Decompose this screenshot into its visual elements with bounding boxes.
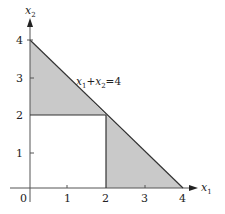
y-axis-arrow-icon <box>27 18 33 27</box>
diagram-canvas: 0 1 2 3 4 1 2 3 4 x1 x2 x1+x2=4 <box>0 0 225 214</box>
y-tick-label-4: 4 <box>16 34 23 47</box>
y-tick-label-1: 1 <box>16 147 23 160</box>
x-tick-label-4: 4 <box>179 192 186 205</box>
x-tick-label-1: 1 <box>64 192 71 205</box>
x-axis-label: x1 <box>201 181 212 196</box>
y-tick-label-3: 3 <box>16 72 23 85</box>
x-axis-arrow-icon <box>189 185 198 191</box>
x-tick-label-3: 3 <box>141 192 148 205</box>
constraint-equation-label: x1+x2=4 <box>76 75 121 90</box>
x-tick-label-0: 0 <box>20 192 27 205</box>
y-axis-label: x2 <box>25 4 36 19</box>
x-tick-label-2: 2 <box>102 192 109 205</box>
y-tick-label-2: 2 <box>16 109 23 122</box>
